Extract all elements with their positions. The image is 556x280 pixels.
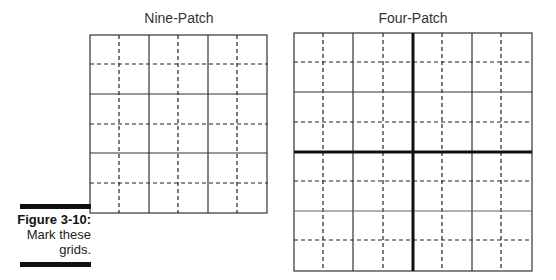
caption-line-2: grids. bbox=[59, 242, 91, 257]
figure-caption: Figure 3-10: Mark these grids. bbox=[0, 0, 91, 280]
figure-label: Figure 3-10: bbox=[17, 212, 91, 227]
nine-patch-title: Nine-Patch bbox=[90, 10, 268, 26]
caption-line-1: Mark these bbox=[27, 227, 91, 242]
nine-patch-grid bbox=[89, 34, 269, 215]
four-patch-title: Four-Patch bbox=[294, 10, 532, 26]
four-patch-grid bbox=[293, 32, 534, 273]
caption-bottom-rule bbox=[20, 262, 91, 267]
